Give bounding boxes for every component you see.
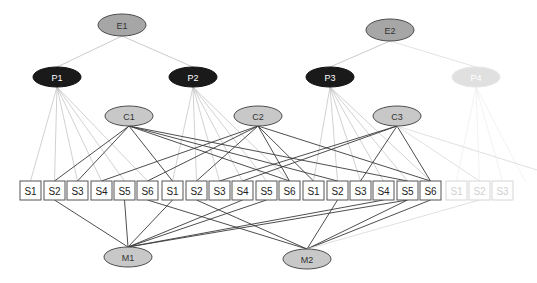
s-box-label: S1 [24,186,37,197]
s-box-g1s5: S5 [114,181,135,200]
edge-C1-g2s1 [129,126,173,181]
edge-C1-g1s2 [55,126,130,181]
hierarchy-diagram: E1E2P1P2P3P4C1C2C3M1M2 S1S2S3S4S5S6S1S2S… [0,0,537,283]
node-p3: P3 [306,67,354,87]
edge-P2-g2s2 [193,87,197,181]
node-label: P1 [51,73,62,83]
edge-C3-g1s1x [397,126,537,170]
edge-C2-g3s6 [258,126,431,181]
s-box-g1s3: S3 [67,181,88,200]
edge-C3-g4s2 [397,126,480,181]
node-label: M2 [301,255,314,265]
node-label: P2 [187,73,198,83]
s-box-label: S4 [95,186,108,197]
edges-layer [31,36,537,249]
s-box-label: S5 [401,186,414,197]
edge-E2-P4 [390,41,476,67]
edge-P1-g1s2 [55,87,58,181]
node-p1: P1 [33,67,81,87]
s-box-label: S2 [473,186,486,197]
node-label: E2 [384,26,395,36]
node-c3: C3 [373,106,421,126]
edge-g2s5-M1 [128,200,267,247]
s-box-g1s4: S4 [91,181,112,200]
node-c2: C2 [234,106,282,126]
node-e2: E2 [366,19,414,41]
edge-P4-g4s3 [476,87,503,181]
s-box-g2s2: S2 [186,181,207,200]
s-box-g2s4: S4 [232,181,253,200]
edge-g1s5-M1 [125,200,129,247]
s-box-g2s3: S3 [209,181,230,200]
edge-g3s6-M2 [307,200,431,249]
boxes-layer: S1S2S3S4S5S6S1S2S3S4S5S6S1S2S3S4S5S6S1S2… [20,181,513,200]
s-box-g2s1: S1 [162,181,183,200]
s-box-g2s6: S6 [279,181,300,200]
edge-P3-g3s1 [314,87,331,181]
node-label: M1 [122,253,135,263]
s-box-label: S6 [141,186,154,197]
node-label: P3 [324,73,335,83]
s-box-g4s2: S2 [469,181,490,200]
edge-g2s2-M2 [197,200,308,249]
s-box-label: S5 [260,186,273,197]
s-box-label: S2 [190,186,203,197]
node-label: C2 [252,112,264,122]
s-box-label: S4 [236,186,249,197]
edge-C3-g2s4 [243,126,398,181]
edge-P2-g2s5 [193,87,267,181]
s-box-label: S2 [331,186,344,197]
node-c1: C1 [105,106,153,126]
s-box-g4s3: S3 [492,181,513,200]
s-box-g3s1: S1 [303,181,324,200]
node-label: C1 [123,112,135,122]
s-box-g3s4: S4 [373,181,394,200]
edge-E2-P3 [330,41,390,67]
node-p2: P2 [169,67,217,87]
node-label: P4 [470,73,481,83]
s-box-label: S1 [166,186,179,197]
s-box-label: S2 [48,186,61,197]
edge-g1s6-M2 [148,200,308,249]
s-box-g1s1: S1 [20,181,41,200]
node-m2: M2 [283,249,331,269]
edge-P1-g1s4 [57,87,102,181]
s-box-label: S6 [424,186,437,197]
s-box-label: S5 [118,186,131,197]
s-box-g1s2: S2 [44,181,65,200]
s-box-g3s5: S5 [397,181,418,200]
s-box-label: S1 [450,186,463,197]
s-box-g3s2: S2 [327,181,348,200]
s-box-label: S3 [71,186,84,197]
edge-P2-g2s3 [193,87,220,181]
edge-C3-g2s3 [220,126,398,181]
edge-P1-g1s1 [31,87,58,181]
s-box-g3s3: S3 [350,181,371,200]
edge-C2-g2s2 [197,126,259,181]
s-box-label: S3 [496,186,509,197]
edge-P4-g4s2 [476,87,480,181]
node-m1: M1 [104,247,152,267]
node-e1: E1 [98,14,146,36]
edge-C2-g1s6 [148,126,259,181]
edge-E1-P1 [57,36,122,67]
s-box-label: S1 [307,186,320,197]
s-box-label: S4 [377,186,390,197]
s-box-g2s5: S5 [256,181,277,200]
edge-P1-g1s6 [57,87,148,181]
s-box-label: S6 [283,186,296,197]
node-p4: P4 [452,67,500,87]
s-box-label: S3 [354,186,367,197]
edge-g1s2-M1 [55,200,129,247]
edge-C3-g3s6 [397,126,431,181]
node-label: E1 [116,21,127,31]
edge-P3-g3s5 [330,87,408,181]
edge-E1-P2 [122,36,193,67]
s-box-g3s6: S6 [420,181,441,200]
s-box-g1s6: S6 [137,181,158,200]
edge-P4-g4s1 [457,87,477,181]
node-label: C3 [391,112,403,122]
s-box-g4s1: S1 [446,181,467,200]
edge-P4-g4s3x [476,87,525,181]
s-box-label: S3 [213,186,226,197]
